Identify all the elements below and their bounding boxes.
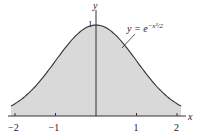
x-tick-label: −2 — [8, 122, 19, 133]
x-tick-label: 2 — [174, 122, 179, 133]
label-leader — [122, 34, 135, 48]
x-tick-label: −1 — [49, 122, 60, 133]
x-tick-label: 1 — [134, 122, 139, 133]
y-tick-1: 1 — [88, 19, 93, 29]
function-label: y = e−x²/2 — [126, 22, 163, 34]
x-axis-label: x — [187, 111, 193, 122]
y-axis-label: y — [92, 0, 98, 11]
bell-curve-diagram: −2−112 x y 1 y = e−x²/2 — [0, 0, 197, 136]
